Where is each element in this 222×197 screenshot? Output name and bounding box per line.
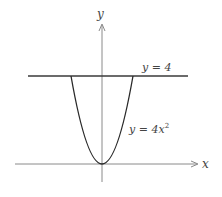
line-y-equals-4-label: y = 4 [141,61,171,74]
parabola-y-equals-4x-squared: y = 4x2 [71,76,169,164]
x-axis-label: x [202,157,209,171]
y-axis: y [96,7,105,182]
parabola-label: y = 4x2 [128,122,169,136]
parabola-label-exponent: 2 [165,122,169,130]
parabola-label-main: y = 4x [128,123,165,136]
y-axis-label: y [96,7,104,21]
x-axis: x [15,157,209,171]
parabola-region-diagram: x y y = 4 y = 4x2 [0,0,222,197]
line-y-equals-4: y = 4 [28,61,188,76]
